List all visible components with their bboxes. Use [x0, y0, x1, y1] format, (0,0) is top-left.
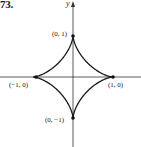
- point-0-1: [71, 34, 75, 38]
- point-1-0: [111, 75, 115, 79]
- point-neg1-0: [34, 75, 38, 79]
- y-axis-label: y: [66, 0, 70, 8]
- label-point-0-neg1: (0, −1): [45, 116, 64, 124]
- label-point-1-0: (1, 0): [108, 81, 123, 89]
- label-point-0-1: (0, 1): [52, 30, 67, 38]
- astroid-diagram: [0, 0, 141, 147]
- y-axis-arrow-icon: [71, 1, 75, 7]
- label-point-neg1-0: (−1, 0): [9, 81, 28, 89]
- point-0-neg1: [71, 116, 75, 120]
